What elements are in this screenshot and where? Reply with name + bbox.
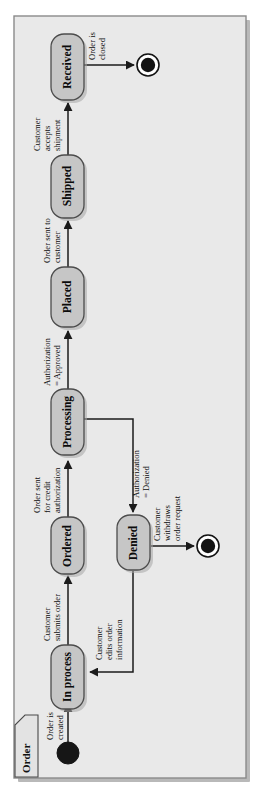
pseudostate-final-closed[interactable]: [137, 54, 159, 76]
label-line: Order sent: [32, 476, 42, 513]
label-line: = Denied: [141, 465, 151, 498]
label-line: submits order: [52, 594, 62, 641]
label-line: customer: [52, 231, 62, 263]
label-line: Customer: [32, 117, 42, 151]
final-state-withdrawn-core[interactable]: [201, 539, 215, 553]
state-diagram-canvas: Order Order is created: [0, 0, 257, 797]
label-line: Customer: [94, 626, 104, 660]
label-t-start: Order is created: [45, 711, 65, 740]
state-denied[interactable]: Denied: [117, 515, 153, 573]
label-line: Customer: [42, 607, 52, 641]
final-state-closed-core[interactable]: [141, 58, 155, 72]
initial-state-node[interactable]: [57, 742, 79, 764]
label-line: Authorization: [131, 450, 141, 498]
state-processing[interactable]: Processing: [51, 389, 87, 458]
label-line: Authorization: [42, 338, 52, 386]
state-denied-label: Denied: [127, 525, 139, 560]
state-placed[interactable]: Placed: [51, 267, 87, 330]
label-line: accepts: [42, 125, 52, 151]
state-received[interactable]: Received: [51, 34, 87, 103]
label-line: closed: [97, 37, 107, 60]
label-line: withdraws: [162, 505, 172, 541]
label-line: Customer: [152, 507, 162, 541]
label-line: Order sent to: [42, 218, 52, 263]
pseudostate-final-withdrawn[interactable]: [197, 535, 219, 557]
state-in-process-label: In process: [61, 652, 74, 702]
label-line: created: [55, 714, 65, 740]
state-received-label: Received: [61, 44, 73, 89]
label-line: shipment: [52, 119, 62, 151]
label-line: Order is: [45, 711, 55, 740]
label-line: order request: [172, 495, 182, 541]
state-shipped-label: Shipped: [61, 165, 74, 206]
label-line: edits order: [104, 623, 114, 660]
state-shipped[interactable]: Shipped: [51, 155, 87, 221]
state-ordered-label: Ordered: [61, 524, 73, 567]
state-placed-label: Placed: [61, 280, 73, 313]
state-processing-label: Processing: [61, 396, 74, 448]
label-line: information: [114, 619, 124, 660]
label-line: = Approved: [52, 344, 62, 386]
frame-label: Order: [20, 744, 32, 773]
state-ordered[interactable]: Ordered: [51, 517, 87, 577]
label-line: Order is: [87, 31, 97, 60]
state-in-process[interactable]: In process: [51, 645, 87, 712]
pseudostate-initial[interactable]: [57, 742, 79, 764]
label-line: authorization: [52, 467, 62, 513]
label-line: for credit: [42, 481, 52, 513]
frame-name-tab: Order: [15, 715, 38, 777]
